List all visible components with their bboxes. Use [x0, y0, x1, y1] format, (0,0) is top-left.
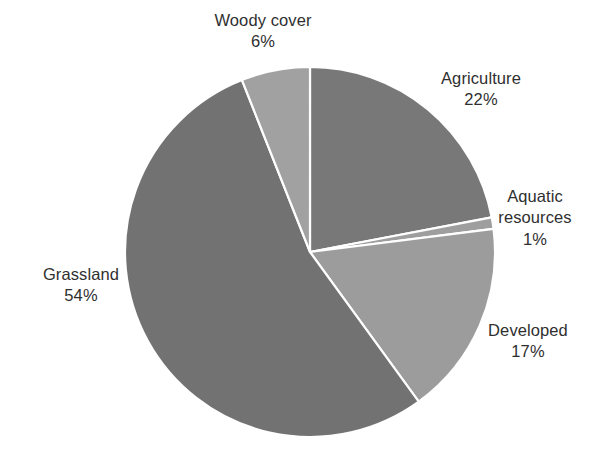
pie-label-grassland-value: 54%: [6, 285, 156, 306]
pie-label-aquatic-resources-name-line2: resources: [470, 207, 600, 228]
pie-label-agriculture: Agriculture 22%: [396, 68, 566, 111]
pie-label-woody-cover-value: 6%: [178, 31, 348, 52]
pie-label-woody-cover-name: Woody cover: [178, 10, 348, 31]
pie-label-developed: Developed 17%: [458, 320, 598, 363]
pie-label-developed-name: Developed: [458, 320, 598, 341]
pie-slices-group: Agriculture 22%Aquatic resources 1%Devel…: [125, 67, 495, 437]
pie-label-woody-cover: Woody cover 6%: [178, 10, 348, 53]
pie-label-agriculture-value: 22%: [396, 89, 566, 110]
pie-label-agriculture-name: Agriculture: [396, 68, 566, 89]
pie-label-developed-value: 17%: [458, 341, 598, 362]
pie-label-aquatic-resources-name-line1: Aquatic: [470, 186, 600, 207]
pie-label-grassland: Grassland 54%: [6, 264, 156, 307]
pie-label-grassland-name: Grassland: [6, 264, 156, 285]
pie-label-aquatic-resources-value: 1%: [470, 229, 600, 250]
pie-chart: Agriculture 22%Aquatic resources 1%Devel…: [0, 0, 609, 468]
pie-label-aquatic-resources: Aquatic resources 1%: [470, 186, 600, 250]
